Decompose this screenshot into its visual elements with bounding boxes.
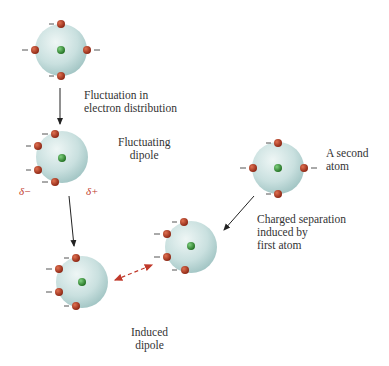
arrow-diagonal bbox=[224, 196, 254, 230]
nucleus-icon bbox=[187, 242, 195, 250]
label-charged-separation: Charged separation induced by first atom bbox=[257, 213, 346, 252]
label-second-atom: A second atom bbox=[326, 147, 368, 173]
atom-induced-separation bbox=[154, 218, 217, 274]
atom-fluctuating-dipole bbox=[26, 130, 88, 186]
label-delta-plus: δ+ bbox=[86, 185, 99, 197]
nucleus-icon bbox=[57, 46, 65, 54]
label-delta-minus: δ− bbox=[19, 185, 32, 197]
interaction-arrow bbox=[115, 265, 152, 280]
label-fluctuation: Fluctuation in electron distribution bbox=[84, 89, 177, 115]
nucleus-icon bbox=[274, 164, 282, 172]
atom-neutral bbox=[22, 20, 100, 80]
nucleus-icon bbox=[58, 154, 66, 162]
label-induced-dipole: Induced dipole bbox=[131, 326, 168, 352]
atom-second bbox=[240, 139, 317, 198]
arrow-down-2 bbox=[69, 196, 74, 246]
diagram-canvas bbox=[0, 0, 389, 366]
label-fluctuating-dipole: Fluctuating dipole bbox=[118, 136, 170, 162]
nucleus-icon bbox=[78, 278, 86, 286]
atom-induced-dipole bbox=[46, 254, 108, 310]
